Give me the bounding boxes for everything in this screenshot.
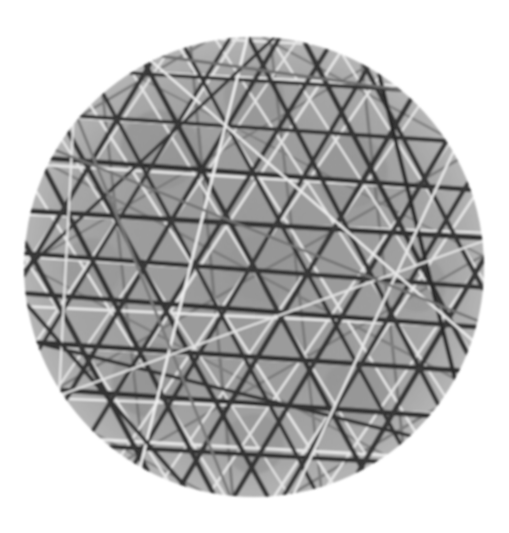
micrograph-figure: [0, 0, 509, 533]
screenshot-canvas: [0, 0, 509, 533]
